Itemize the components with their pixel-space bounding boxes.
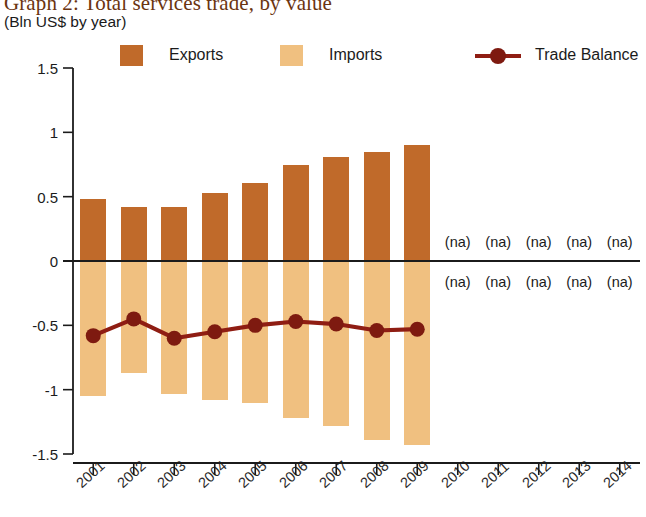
x-axis-tick-label: 2003 [154, 457, 189, 490]
x-axis-tick-label: 2010 [438, 457, 473, 490]
bar-exports [283, 165, 309, 262]
x-axis-tick-label: 2002 [114, 457, 149, 490]
y-axis-tick-label: 1 [10, 124, 58, 141]
bar-imports [161, 261, 187, 394]
bar-imports [121, 261, 147, 373]
bar-imports [202, 261, 228, 400]
y-axis-tick-label: -1.5 [10, 446, 58, 463]
y-axis-tick-label: -0.5 [10, 317, 58, 334]
na-annotation: (na) [445, 274, 471, 290]
na-annotation: (na) [485, 234, 511, 250]
x-axis-tick-label: 2014 [600, 457, 635, 490]
x-axis-tick-label: 2013 [559, 457, 594, 490]
bar-imports [242, 261, 268, 403]
bar-exports [404, 145, 430, 261]
na-annotation: (na) [607, 234, 633, 250]
na-annotation: (na) [566, 234, 592, 250]
x-axis-tick-label: 2008 [357, 457, 392, 490]
na-annotation: (na) [445, 234, 471, 250]
plot-area: 1.510.50-0.5-1-1.5(na)(na)(na)(na)(na)(n… [0, 0, 646, 517]
bar-exports [323, 157, 349, 261]
y-axis-tick-label: 0 [10, 253, 58, 270]
bar-imports [80, 261, 106, 396]
na-annotation: (na) [566, 274, 592, 290]
x-axis-tick-label: 2004 [195, 457, 230, 490]
bar-exports [242, 183, 268, 261]
y-axis-tick-label: -1 [10, 381, 58, 398]
bar-exports [364, 152, 390, 261]
x-axis-tick-label: 2007 [316, 457, 351, 490]
bar-imports [283, 261, 309, 418]
bar-imports [323, 261, 349, 426]
bar-exports [202, 193, 228, 261]
y-axis-tick-label: 1.5 [10, 60, 58, 77]
x-axis-tick-label: 2006 [276, 457, 311, 490]
bar-exports [161, 207, 187, 261]
bar-exports [80, 199, 106, 261]
na-annotation: (na) [485, 274, 511, 290]
x-axis-tick-label: 2012 [519, 457, 554, 490]
y-axis-tick-label: 0.5 [10, 188, 58, 205]
na-annotation: (na) [607, 274, 633, 290]
na-annotation: (na) [526, 234, 552, 250]
chart-figure: Graph 2: Total services trade, by value … [0, 0, 646, 517]
bar-imports [364, 261, 390, 440]
bar-exports [121, 207, 147, 261]
na-annotation: (na) [526, 274, 552, 290]
bar-imports [404, 261, 430, 445]
x-axis-tick-label: 2009 [397, 457, 432, 490]
x-axis-tick-label: 2001 [73, 457, 108, 490]
x-axis-tick-label: 2011 [478, 458, 512, 491]
x-axis-tick-label: 2005 [235, 457, 270, 490]
